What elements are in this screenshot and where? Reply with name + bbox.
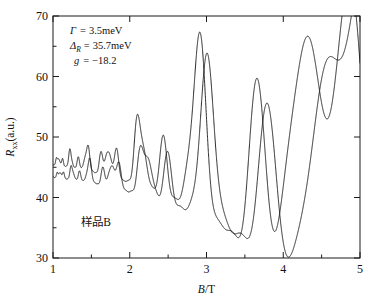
annotation-gfactor-value: −18.2 [92, 55, 116, 66]
x-axis-title-unit: /T [205, 283, 215, 295]
x-axis-title: B/T [198, 283, 215, 295]
figure-container: 70 60 50 40 30 1 2 3 4 5 B/T Rxx(a.u.) Γ… [0, 0, 382, 304]
x-tick-label: 4 [280, 262, 286, 276]
annotation-gamma-symbol: Γ [69, 25, 77, 36]
y-tick-label: 70 [36, 9, 48, 23]
annotation-gfactor-symbol: g [74, 55, 79, 66]
sample-label: 样品B [81, 215, 111, 228]
annotation-gamma-equals: = [80, 25, 86, 36]
annotation-delta-equals: = [84, 40, 90, 51]
y-axis-title-subscript: xx [10, 142, 19, 150]
shubnikov-de-haas-plot: 70 60 50 40 30 1 2 3 4 5 B/T Rxx(a.u.) Γ… [0, 0, 382, 304]
x-tick-label: 1 [50, 262, 56, 276]
y-tick-label: 30 [36, 251, 48, 265]
svg-text:B/T: B/T [198, 283, 215, 295]
annotation-delta-subscript: R [75, 45, 81, 54]
y-axis-title-symbol: R [4, 150, 16, 158]
y-tick-label: 60 [36, 70, 48, 84]
y-axis-title-unit: (a.u.) [4, 117, 17, 141]
annotation-gfactor-equals: = [83, 55, 89, 66]
x-tick-label: 2 [127, 262, 133, 276]
annotation-delta-value: 35.7meV [93, 40, 132, 51]
annotation-delta-symbol: Δ [69, 40, 76, 51]
x-axis-title-symbol: B [198, 283, 205, 295]
x-tick-label: 3 [204, 262, 210, 276]
x-tick-label: 5 [357, 262, 363, 276]
y-tick-label: 50 [36, 130, 48, 144]
annotation-gamma-value: 3.5meV [89, 25, 123, 36]
y-tick-label: 40 [36, 191, 48, 205]
